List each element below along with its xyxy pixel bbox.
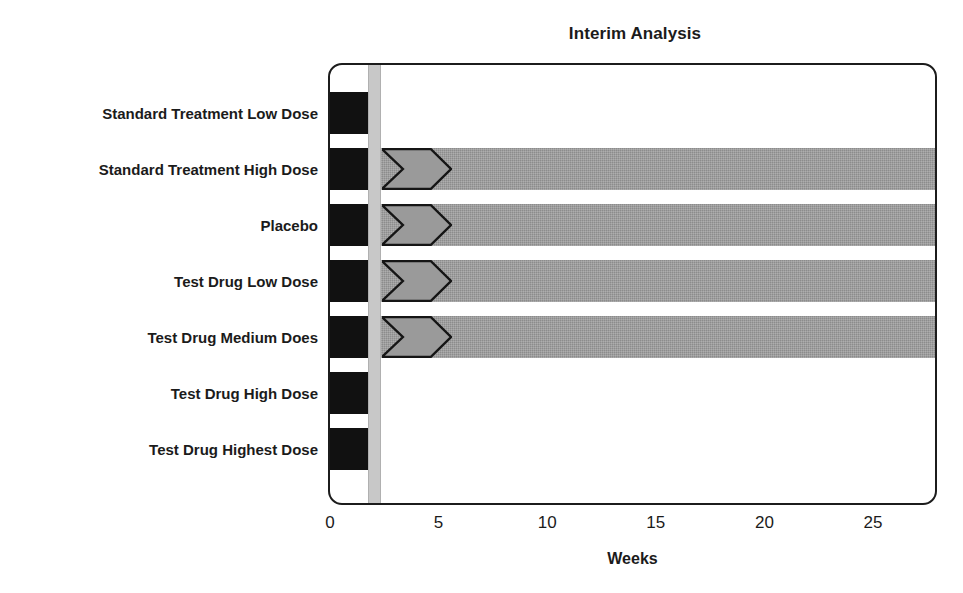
x-axis-tick-label: 0 [325,513,334,533]
x-axis-tick-label: 10 [538,513,557,533]
x-axis-tick-group: 0510152025 [0,0,963,593]
x-axis-tick-label: 5 [434,513,443,533]
chart-screenshot: Interim Analysis Standard Treatment Low … [0,0,963,593]
x-axis-title: Weeks [328,550,937,568]
x-axis-tick-label: 25 [864,513,883,533]
x-axis-tick-label: 15 [646,513,665,533]
x-axis-tick-label: 20 [755,513,774,533]
